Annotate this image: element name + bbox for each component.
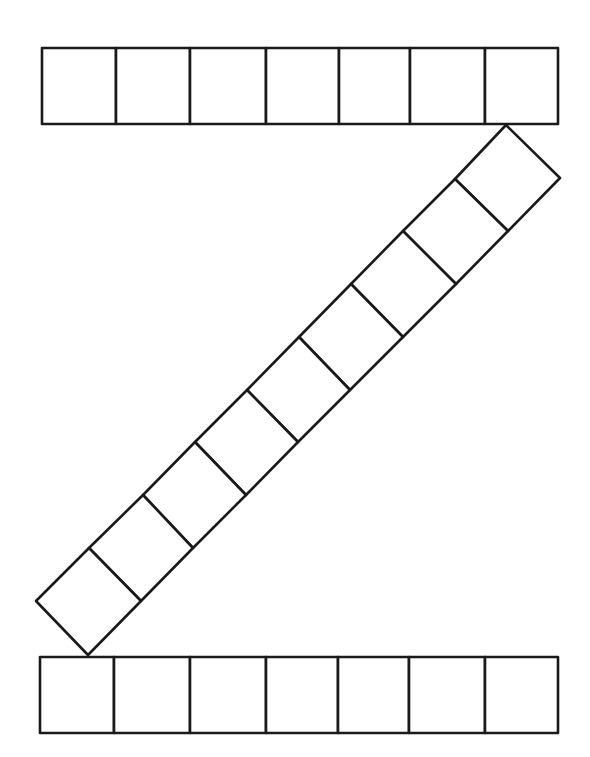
top-row-square-1 [42, 48, 116, 124]
bottom-row-square-5 [338, 657, 409, 733]
top-row-square-3 [190, 48, 266, 124]
bottom-row-squares [40, 657, 558, 733]
top-row-square-7 [485, 48, 558, 124]
top-row-square-6 [410, 48, 485, 124]
bottom-row-square-2 [114, 657, 190, 733]
top-row-squares [42, 48, 558, 124]
bottom-row-square-6 [409, 657, 485, 733]
top-row-square-5 [339, 48, 410, 124]
bottom-row-square-4 [266, 657, 338, 733]
bottom-row-square-7 [485, 657, 558, 733]
z-squares-diagram [0, 0, 590, 757]
top-row-square-4 [266, 48, 339, 124]
diagonal-band-squares [36, 125, 560, 655]
top-row-square-2 [116, 48, 190, 124]
diagram-canvas [0, 0, 590, 757]
bottom-row-square-3 [190, 657, 266, 733]
bottom-row-square-1 [40, 657, 114, 733]
